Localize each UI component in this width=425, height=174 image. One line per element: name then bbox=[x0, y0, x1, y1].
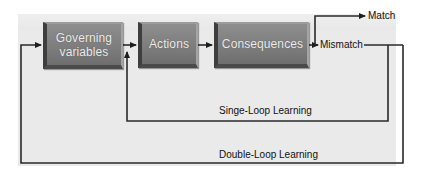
governing-label-line2: variables bbox=[60, 45, 109, 59]
single-loop-label: Singe-Loop Learning bbox=[219, 105, 312, 117]
consequences-box: Consequences bbox=[214, 22, 309, 68]
actions-label: Actions bbox=[149, 37, 189, 51]
governing-variables-box: Governing variables bbox=[43, 22, 123, 69]
match-label: Match bbox=[368, 10, 395, 22]
double-loop-label: Double-Loop Learning bbox=[219, 149, 318, 161]
consequences-label: Consequences bbox=[222, 37, 303, 51]
actions-box: Actions bbox=[138, 22, 198, 68]
mismatch-label: Mismatch bbox=[320, 39, 363, 51]
governing-label-line1: Governing bbox=[56, 31, 112, 45]
